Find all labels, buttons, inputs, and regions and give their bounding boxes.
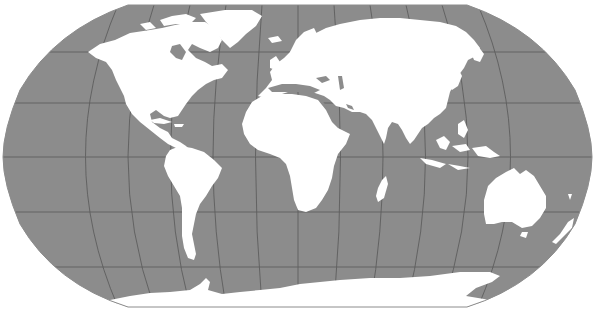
world-map-svg — [0, 0, 595, 309]
world-map — [0, 0, 595, 309]
